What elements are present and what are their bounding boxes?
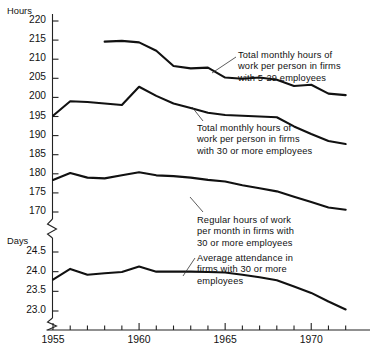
x-tick-label: 1970 xyxy=(281,334,341,345)
y-tick-label: 24.5 xyxy=(0,245,46,256)
axis-unit-label: Days xyxy=(7,236,28,246)
anno-5-29-leader xyxy=(212,57,236,73)
y-tick-label: 190 xyxy=(0,129,46,140)
x-tick-label: 1955 xyxy=(23,334,83,345)
y-tick-label: 215 xyxy=(0,33,46,44)
axis-unit-label: Hours xyxy=(7,6,32,16)
x-tick-label: 1965 xyxy=(195,334,255,345)
anno-regular: Regular hours of work per month in firms… xyxy=(197,215,294,249)
anno-attendance: Average attendance in firms with 30 or m… xyxy=(197,253,293,287)
y-tick-label: 23.5 xyxy=(0,284,46,295)
anno-5-29: Total monthly hours of work per person i… xyxy=(238,50,341,84)
y-tick-label: 175 xyxy=(0,186,46,197)
y-tick-label: 210 xyxy=(0,52,46,63)
y-tick-label: 24.0 xyxy=(0,265,46,276)
anno-30-total: Total monthly hours of work per person i… xyxy=(197,123,312,157)
y-tick-label: 23.0 xyxy=(0,304,46,315)
y-tick-label: 185 xyxy=(0,148,46,159)
anno-regular-leader xyxy=(190,197,203,212)
anno-attendance-leader xyxy=(183,258,195,276)
x-tick-label: 1960 xyxy=(109,334,169,345)
series-line-3 xyxy=(53,172,346,209)
y-tick-label: 200 xyxy=(0,90,46,101)
y-tick-label: 170 xyxy=(0,205,46,216)
y-tick-label: 195 xyxy=(0,110,46,121)
chart-figure: 17017518018519019520020521021522023.023.… xyxy=(0,0,374,354)
y-tick-label: 205 xyxy=(0,71,46,82)
y-tick-label: 180 xyxy=(0,167,46,178)
